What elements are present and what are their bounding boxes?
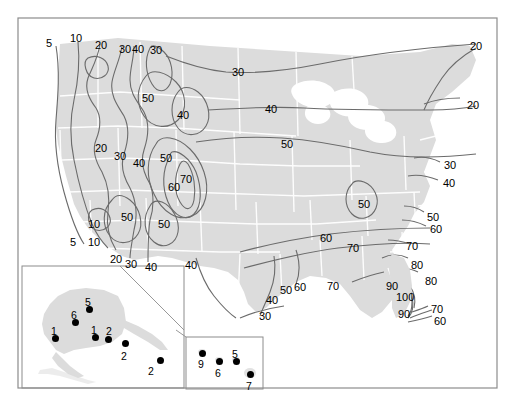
contour-label: 30	[119, 44, 131, 55]
contour-label: 20	[95, 40, 107, 51]
station-point	[122, 340, 129, 347]
contour-label: 90	[398, 309, 410, 320]
station-point-label: 9	[198, 359, 204, 370]
contour-label: 60	[168, 182, 180, 193]
contour-label: 40	[265, 104, 277, 115]
alaska-inset-group	[22, 266, 184, 388]
station-point	[199, 350, 206, 357]
contour-label: 40	[443, 178, 455, 189]
contour-label: 30	[232, 67, 244, 78]
station-point-label: 5	[85, 297, 91, 308]
station-point-label: 5	[232, 349, 238, 360]
contour-label: 50	[121, 212, 133, 223]
contour-label: 80	[425, 276, 437, 287]
contour-label: 30	[125, 259, 137, 270]
contour-map-figure: 5102030403030205040402020304050503040706…	[0, 0, 515, 415]
contour-label: 70	[431, 304, 443, 315]
station-point-label: 2	[121, 351, 127, 362]
station-point-label: 2	[148, 366, 154, 377]
station-point-label: 2	[106, 326, 112, 337]
station-point-label: 1	[91, 325, 97, 336]
contour-label: 70	[327, 281, 339, 292]
contour-label: 40	[133, 158, 145, 169]
contour-label: 10	[70, 33, 82, 44]
contour-label: 20	[467, 100, 479, 111]
contour-label: 50	[281, 139, 293, 150]
station-point-label: 1	[51, 326, 57, 337]
contour-label: 60	[294, 282, 306, 293]
contour-label: 70	[180, 174, 192, 185]
contour-label: 80	[411, 260, 423, 271]
contour-label: 30	[259, 311, 271, 322]
contour-label: 5	[70, 237, 76, 248]
contour-label: 70	[406, 241, 418, 252]
contour-label: 10	[88, 219, 100, 230]
contour-label: 40	[177, 110, 189, 121]
station-point	[216, 358, 223, 365]
contour-label: 10	[88, 237, 100, 248]
contour-label: 50	[160, 153, 172, 164]
contour-label: 50	[142, 93, 154, 104]
contour-label: 40	[185, 260, 197, 271]
contour-label: 60	[320, 233, 332, 244]
station-point	[247, 371, 254, 378]
station-point	[157, 357, 164, 364]
contour-label: 50	[358, 199, 370, 210]
station-point-label: 7	[246, 381, 252, 392]
contour-label: 30	[444, 160, 456, 171]
station-point-label: 6	[71, 310, 77, 321]
contour-label: 5	[46, 38, 52, 49]
contour-label: 50	[427, 212, 439, 223]
contour-label: 30	[150, 45, 162, 56]
contour-label: 50	[280, 285, 292, 296]
map-canvas	[0, 0, 515, 415]
contour-label: 70	[347, 243, 359, 254]
contour-label: 30	[114, 151, 126, 162]
contour-label: 20	[470, 41, 482, 52]
contour-label: 20	[110, 254, 122, 265]
contour-label: 40	[145, 262, 157, 273]
contour-label: 50	[158, 219, 170, 230]
contour-label: 100	[396, 292, 414, 303]
contour-label: 40	[132, 44, 144, 55]
station-point-label: 6	[215, 368, 221, 379]
contour-label: 40	[266, 295, 278, 306]
contour-label: 60	[430, 224, 442, 235]
contour-label: 60	[434, 316, 446, 327]
contour-label: 20	[95, 143, 107, 154]
